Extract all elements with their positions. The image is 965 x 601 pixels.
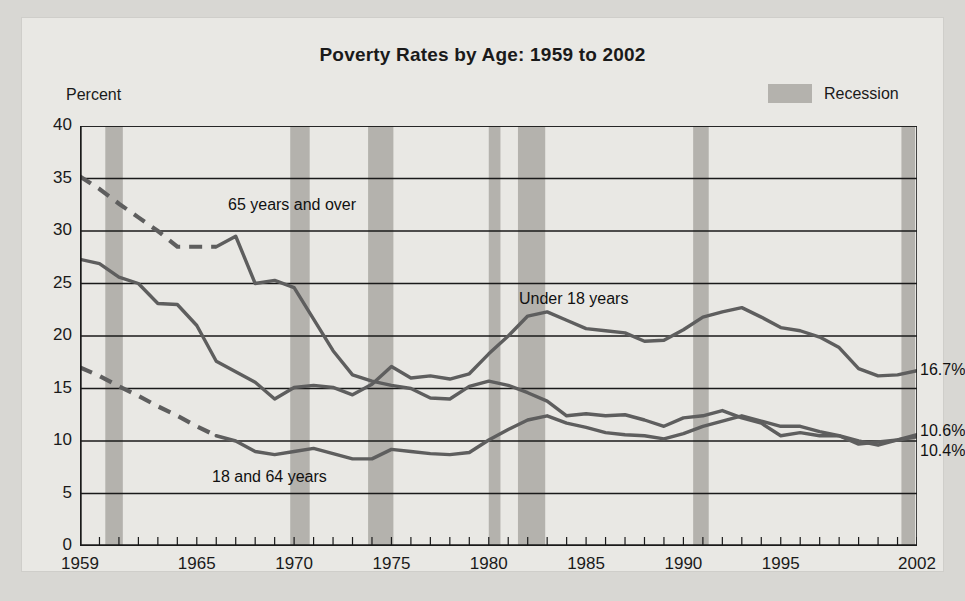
y-tick-label-0: 0: [32, 535, 72, 555]
series-line-dashed-2: [80, 368, 216, 436]
y-tick-label-35: 35: [32, 168, 72, 188]
y-tick-label-40: 40: [32, 115, 72, 135]
chart-plot-svg: [80, 126, 917, 546]
y-tick-label-15: 15: [32, 378, 72, 398]
series-line-2: [216, 416, 917, 459]
series-line-0: [216, 236, 917, 444]
x-tick-label-2002: 2002: [887, 554, 947, 574]
series-annotation-age18to64: 18 and 64 years: [212, 468, 327, 486]
chart-title: Poverty Rates by Age: 1959 to 2002: [22, 44, 943, 66]
y-tick-label-10: 10: [32, 430, 72, 450]
chart-figure: Poverty Rates by Age: 1959 to 2002 Perce…: [22, 18, 943, 571]
x-tick-label-1980: 1980: [459, 554, 519, 574]
x-tick-label-1995: 1995: [751, 554, 811, 574]
end-value-label-over65-end: 10.6%: [920, 422, 965, 440]
y-tick-label-5: 5: [32, 483, 72, 503]
x-tick-label-1970: 1970: [264, 554, 324, 574]
x-tick-label-1965: 1965: [167, 554, 227, 574]
recession-legend-label: Recession: [824, 85, 899, 103]
y-tick-label-25: 25: [32, 273, 72, 293]
y-axis-title: Percent: [66, 86, 121, 104]
y-tick-label-20: 20: [32, 325, 72, 345]
end-value-label-age18to64-end: 10.4%: [920, 442, 965, 460]
series-annotation-over65: 65 years and over: [228, 196, 356, 214]
x-tick-label-1990: 1990: [653, 554, 713, 574]
end-value-label-under18-end: 16.7%: [920, 361, 965, 379]
x-tick-label-1975: 1975: [361, 554, 421, 574]
chart-legend: Recession: [768, 84, 899, 103]
series-annotation-under18: Under 18 years: [519, 290, 628, 308]
plot-area: [80, 126, 917, 546]
recession-legend-swatch: [768, 84, 812, 103]
series-line-dashed-0: [80, 176, 216, 246]
x-tick-label-1959: 1959: [50, 554, 110, 574]
y-tick-label-30: 30: [32, 220, 72, 240]
x-tick-label-1985: 1985: [556, 554, 616, 574]
